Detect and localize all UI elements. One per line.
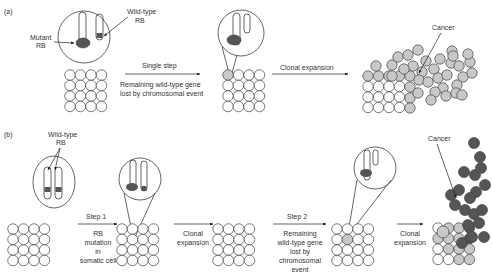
cell-icon	[86, 80, 97, 91]
caption-line: RB	[93, 230, 103, 237]
clonal-expansion-caption-2: Clonalexpansion	[394, 230, 426, 247]
cell-icon	[127, 234, 138, 245]
caption-line: Clonal	[400, 230, 420, 237]
cell-icon	[442, 70, 452, 80]
cell-icon	[223, 80, 234, 91]
wildtype-rb-band-icon	[56, 187, 62, 192]
cell-icon	[75, 80, 86, 91]
cell-icon	[148, 234, 159, 245]
cell-icon	[394, 102, 404, 112]
cell-icon	[463, 220, 474, 231]
cell-icon	[426, 95, 436, 105]
cell-icon	[65, 101, 76, 112]
cell-icon	[96, 70, 107, 81]
caption-line: Remaining	[283, 230, 317, 238]
cell-icon	[127, 255, 138, 266]
cell-icon	[234, 255, 245, 266]
caption-line: in	[95, 248, 101, 255]
cell-icon	[223, 101, 234, 112]
cell-icon	[75, 91, 86, 102]
cell-icon	[8, 224, 19, 235]
cell-icon	[223, 224, 234, 235]
cell-icon	[384, 92, 394, 102]
panel-a-germline-nucleus	[58, 11, 110, 63]
cell-icon	[363, 92, 373, 102]
cell-icon	[353, 255, 364, 266]
cell-icon	[233, 91, 244, 102]
cell-icon	[8, 245, 19, 256]
cell-icon	[86, 101, 97, 112]
cell-icon	[469, 138, 480, 149]
cell-icon	[75, 101, 86, 112]
cell-icon	[465, 193, 476, 204]
cell-icon	[213, 224, 224, 235]
cell-icon	[254, 101, 265, 112]
cell-icon	[254, 91, 265, 102]
cell-icon	[373, 102, 383, 112]
cell-icon	[332, 245, 343, 256]
cell-icon	[476, 163, 487, 174]
cell-icon	[148, 224, 159, 235]
cell-icon	[413, 45, 423, 55]
cell-icon	[443, 244, 453, 254]
cell-icon	[450, 200, 461, 211]
cell-icon	[234, 234, 245, 245]
cell-icon	[363, 71, 373, 81]
cell-icon	[387, 71, 397, 81]
cell-icon	[454, 61, 464, 71]
panel-b-normal-nucleus	[33, 156, 75, 208]
cell-icon	[233, 80, 244, 91]
cell-icon	[244, 70, 255, 81]
single-step-caption-1: Remaining wild-type gene	[120, 81, 201, 89]
panel-b-step2-nucleus	[348, 147, 396, 233]
mutant-rb-blob-icon	[126, 183, 138, 191]
cell-icon	[477, 205, 488, 216]
cell-icon	[233, 101, 244, 112]
cell-icon	[433, 244, 443, 254]
cell-icon	[39, 255, 50, 266]
cell-icon	[65, 80, 76, 91]
caption-line: expansion	[177, 239, 209, 247]
panel-b-loh-tissue	[332, 224, 374, 266]
cell-icon	[29, 234, 40, 245]
caption-line: wild-type gene	[276, 239, 322, 247]
cell-icon	[457, 90, 467, 100]
cell-icon	[223, 255, 234, 266]
panel-b-label: (b)	[4, 131, 13, 139]
cell-icon	[18, 224, 29, 235]
cell-icon	[403, 50, 413, 60]
cell-icon	[148, 255, 159, 266]
cell-icon	[399, 64, 409, 74]
cell-icon	[479, 232, 490, 243]
clonal-expansion-label-a: Clonal expansion	[280, 64, 334, 72]
cell-icon	[234, 245, 245, 256]
cell-icon	[223, 91, 234, 102]
cell-icon	[29, 245, 40, 256]
cell-icon	[474, 218, 485, 229]
cell-icon	[459, 167, 470, 178]
single-step-label: Single step	[142, 62, 177, 70]
cell-icon	[363, 224, 374, 235]
cell-icon	[233, 70, 244, 81]
chromosome-icon	[244, 14, 250, 33]
cell-icon	[223, 70, 234, 81]
cell-icon	[384, 81, 394, 91]
wildtype-rb-label-1: Wild-type	[127, 8, 156, 16]
single-step-caption-2: lost by chromosomal event	[120, 90, 203, 98]
rb-two-hit-diagram: (a) Mutant RB Wild-type RB Single step R…	[0, 0, 492, 279]
cancer-label-b: Cancer	[428, 135, 451, 142]
caption-line: mutation	[85, 239, 112, 246]
cell-icon	[213, 255, 224, 266]
cell-icon	[96, 101, 107, 112]
cell-icon	[117, 245, 128, 256]
cell-icon	[441, 91, 451, 101]
mutant-rb-blob-icon	[360, 169, 372, 177]
cell-icon	[148, 245, 159, 256]
caption-line: somatic cell	[80, 257, 117, 264]
cell-icon	[244, 224, 255, 235]
cell-icon	[353, 245, 364, 256]
caption-line: event	[291, 266, 308, 273]
wildtype-rb-label-b-2: RB	[56, 139, 66, 146]
cell-icon	[65, 70, 76, 81]
cell-icon	[332, 255, 343, 266]
